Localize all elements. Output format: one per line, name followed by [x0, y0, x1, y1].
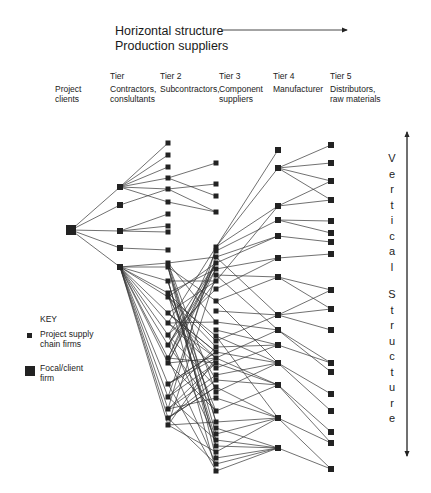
tier1-node [117, 184, 123, 190]
link-line [216, 322, 278, 330]
link-line [278, 418, 331, 469]
tier5-node [328, 218, 334, 224]
link-line [168, 322, 216, 323]
link-line [278, 330, 331, 372]
link-line [120, 187, 168, 189]
link-line [120, 263, 168, 267]
link-line [168, 202, 216, 212]
tier3-node [214, 210, 219, 215]
link-line [278, 236, 331, 242]
link-line [216, 311, 278, 315]
tier2-node [166, 407, 171, 412]
link-line [278, 309, 331, 315]
link-line [278, 163, 331, 168]
link-line [278, 200, 331, 206]
tier5-node [328, 327, 334, 333]
tier2-node [166, 356, 171, 361]
link-line [120, 267, 168, 425]
tier5-node [328, 408, 334, 414]
link-line [216, 428, 278, 448]
link-line [216, 385, 278, 411]
tier2-node [166, 153, 171, 158]
link-line [278, 254, 331, 258]
tier3-node [214, 378, 219, 383]
tier3-node [214, 462, 219, 467]
tier4-node [275, 255, 281, 261]
tier3-node [214, 161, 219, 166]
tier3-node [214, 345, 219, 350]
link-line [278, 277, 331, 309]
tier2-node [166, 200, 171, 205]
tier3-node [214, 426, 219, 431]
tier5-node [328, 230, 334, 236]
tier3-node [214, 385, 219, 390]
tier3-node [214, 450, 219, 455]
tier2-node [166, 295, 171, 300]
link-line [278, 168, 331, 200]
link-line [278, 448, 331, 469]
link-line [216, 236, 278, 263]
tier2-node [166, 212, 171, 217]
tier3-node [214, 249, 219, 254]
tier1-node [117, 245, 123, 251]
tier5-node [328, 160, 334, 166]
link-line [278, 315, 331, 330]
tier2-node [166, 361, 171, 366]
tier4-node [275, 415, 281, 421]
link-line [216, 398, 278, 418]
tier4-node [275, 165, 281, 171]
link-line [71, 230, 120, 248]
link-line [168, 263, 216, 335]
link-line [278, 277, 331, 290]
tier1-node [117, 228, 123, 234]
tier2-node [166, 165, 171, 170]
link-line [216, 448, 278, 464]
tier3-node [214, 299, 219, 304]
link-line [216, 315, 278, 341]
tier3-node [214, 309, 219, 314]
tier5-node [328, 251, 334, 257]
link-line [216, 336, 278, 363]
link-line [216, 206, 278, 247]
tier4-node [275, 147, 281, 153]
tier3-node [214, 390, 219, 395]
tier4-node [275, 327, 281, 333]
tier2-node [166, 265, 171, 270]
tier3-node [214, 273, 219, 278]
link-line [278, 363, 331, 411]
link-line [216, 206, 278, 281]
tier3-node [214, 320, 219, 325]
supply-chain-network [0, 0, 431, 493]
tier3-node [214, 287, 219, 292]
tier2-node [166, 416, 171, 421]
tier3-node [214, 469, 219, 474]
link-line [216, 258, 278, 289]
tier3-node [214, 366, 219, 371]
link-line [120, 267, 168, 409]
link-line [278, 181, 331, 206]
tier3-node [214, 356, 219, 361]
tier3-node [214, 328, 219, 333]
tier5-node [328, 391, 334, 397]
tier2-node [166, 343, 171, 348]
tier2-node [166, 333, 171, 338]
tier3-node [214, 438, 219, 443]
link-line [216, 448, 278, 471]
link-line [278, 168, 331, 181]
tier2-node [166, 382, 171, 387]
link-line [168, 163, 216, 178]
tier5-node [328, 287, 334, 293]
tier5-node [328, 306, 334, 312]
link-line [216, 448, 278, 458]
tier3-node [214, 373, 219, 378]
link-line [120, 167, 168, 187]
link-line [278, 385, 331, 432]
tier3-node [214, 194, 219, 199]
link-line [278, 145, 331, 168]
link-line [278, 363, 331, 394]
link-line [120, 267, 168, 384]
link-line [120, 231, 168, 232]
link-line [278, 418, 331, 443]
tier3-node [214, 361, 219, 366]
link-line [278, 220, 331, 233]
